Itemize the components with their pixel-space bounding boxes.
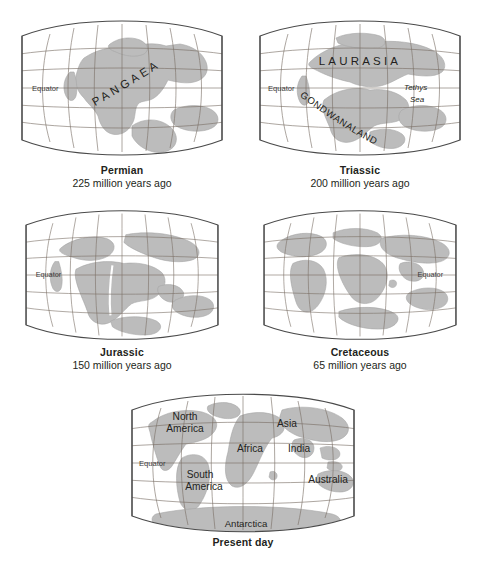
map-cretaceous: Equator [252, 204, 468, 346]
map-svg-permian: Equator PANGAEA [14, 14, 230, 162]
label-equator: Equator [418, 270, 444, 279]
caption-title-present-day: Present day [122, 536, 364, 548]
map-svg-present-day: Equator North America South America Afri… [122, 386, 364, 538]
continental-drift-figure: Equator PANGAEA Permian 225 million year… [0, 0, 482, 568]
label-equator: Equator [32, 84, 59, 93]
label-north-america-line1: North [173, 411, 198, 422]
label-south-america-line2: America [185, 481, 223, 492]
map-svg-cretaceous: Equator [252, 204, 468, 346]
panel-present-day: Equator North America South America Afri… [122, 386, 364, 562]
map-permian: Equator PANGAEA [14, 14, 230, 162]
caption-title-jurassic: Jurassic [14, 346, 230, 358]
label-africa: Africa [237, 443, 263, 454]
caption-jurassic: Jurassic 150 million years ago [14, 346, 230, 372]
label-equator: Equator [36, 270, 62, 279]
label-laurasia: LAURASIA [319, 55, 401, 67]
map-present-day: Equator North America South America Afri… [122, 386, 364, 538]
label-north-america-line2: America [166, 423, 204, 434]
panel-cretaceous: Equator Cretaceous 65 million years ago [252, 204, 468, 374]
caption-title-permian: Permian [14, 164, 230, 176]
caption-permian: Permian 225 million years ago [14, 164, 230, 190]
caption-title-triassic: Triassic [252, 164, 468, 176]
caption-sub-permian: 225 million years ago [14, 177, 230, 189]
label-australia: Australia [308, 474, 348, 485]
label-antarctica: Antarctica [225, 518, 268, 529]
map-svg-jurassic: Equator [14, 204, 230, 346]
label-equator: Equator [139, 459, 166, 468]
caption-triassic: Triassic 200 million years ago [252, 164, 468, 190]
label-asia: Asia [277, 418, 297, 429]
label-tethys-sea-line2: Sea [410, 95, 425, 104]
caption-sub-triassic: 200 million years ago [252, 177, 468, 189]
panel-permian: Equator PANGAEA Permian 225 million year… [14, 14, 230, 192]
label-tethys-sea-line1: Tethys [404, 83, 427, 92]
panel-jurassic: Equator Jurassic 150 million years ago [14, 204, 230, 374]
caption-sub-cretaceous: 65 million years ago [252, 359, 468, 371]
caption-present-day: Present day [122, 536, 364, 548]
caption-title-cretaceous: Cretaceous [252, 346, 468, 358]
map-jurassic: Equator [14, 204, 230, 346]
caption-sub-jurassic: 150 million years ago [14, 359, 230, 371]
map-svg-triassic: Equator LAURASIA GONDWANALAND Tethys Sea [252, 14, 468, 162]
map-triassic: Equator LAURASIA GONDWANALAND Tethys Sea [252, 14, 468, 162]
caption-cretaceous: Cretaceous 65 million years ago [252, 346, 468, 372]
label-equator: Equator [268, 84, 295, 93]
label-india: India [288, 443, 310, 454]
panel-triassic: Equator LAURASIA GONDWANALAND Tethys Sea… [252, 14, 468, 192]
label-south-america-line1: South [187, 469, 214, 480]
